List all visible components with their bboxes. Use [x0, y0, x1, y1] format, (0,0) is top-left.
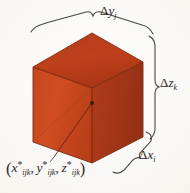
- subscript-k: k: [173, 83, 177, 92]
- coord-y-subscript: ijk: [47, 168, 55, 177]
- comma-1: ,: [30, 160, 33, 175]
- subscript-i: i: [153, 155, 155, 164]
- label-delta-x-i: Δxi: [139, 148, 155, 164]
- sample-point-dot: [90, 101, 94, 105]
- close-paren: ): [80, 159, 85, 178]
- label-sample-point: (x*ijk, y*ijk, z*ijk): [6, 160, 85, 177]
- coord-z-subscript: ijk: [72, 168, 80, 177]
- label-delta-z-k: Δzk: [160, 76, 177, 92]
- label-delta-y-j: Δyj: [100, 4, 116, 20]
- comma-2: ,: [56, 160, 59, 175]
- subscript-j: j: [114, 11, 116, 20]
- figure-container: Δyj Δzk Δxi (x*ijk, y*ijk, z*ijk): [0, 0, 190, 193]
